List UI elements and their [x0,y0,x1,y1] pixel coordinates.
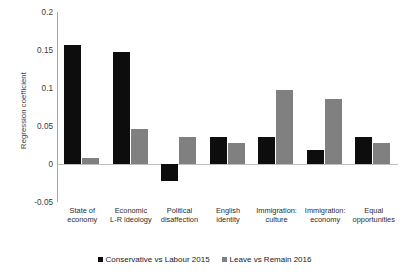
bar-group [301,12,350,202]
legend-item[interactable]: Conservative vs Labour 2015 [98,255,210,264]
plot-area: 0.20.150.10.050-0.05 [57,12,398,202]
x-category-label: Immigration:culture [252,206,301,225]
bar [210,137,227,164]
bar-group [204,12,253,202]
y-tick-label: 0.1 [42,84,53,93]
bar-groups [58,12,398,202]
bar [161,164,178,181]
regression-coefficient-bar-chart: Regression coefficient 0.20.150.10.050-0… [0,0,409,280]
bar [373,143,390,164]
x-category-label: EconomicL-R ideology [107,206,156,225]
legend-swatch-icon [98,257,103,262]
bar-group [107,12,156,202]
y-tick-label: 0 [48,160,53,169]
bar-group [349,12,398,202]
bar [276,90,293,164]
legend-label: Leave vs Remain 2016 [230,255,312,264]
bar [258,137,275,164]
bar [307,150,324,164]
y-tick-label: 0.15 [37,46,53,55]
x-category-label: Politicaldisaffection [155,206,204,225]
x-category-label: Equalopportunities [349,206,398,225]
y-tick-label: 0.05 [37,122,53,131]
legend-label: Conservative vs Labour 2015 [106,255,210,264]
y-axis-title: Regression coefficient [19,36,28,186]
bar-group [252,12,301,202]
bar [179,137,196,164]
bar [355,137,372,164]
y-tick-label: 0.2 [42,8,53,17]
legend-swatch-icon [222,257,227,262]
bar [131,129,148,164]
bar [113,52,130,164]
x-category-label: State ofeconomy [58,206,107,225]
y-tick-label: -0.05 [34,198,53,207]
legend-item[interactable]: Leave vs Remain 2016 [222,255,312,264]
bar [325,99,342,164]
x-axis-category-labels: State ofeconomyEconomicL-R ideologyPolit… [58,206,398,225]
bar [82,158,99,164]
bar [228,143,245,164]
bar [64,45,81,164]
x-category-label: Immigration:economy [301,206,350,225]
chart-legend: Conservative vs Labour 2015Leave vs Rema… [0,255,409,264]
bar-group [58,12,107,202]
bar-group [155,12,204,202]
x-category-label: Englishidentity [204,206,253,225]
